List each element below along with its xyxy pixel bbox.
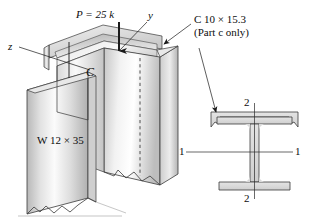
section-fillet-br [259,175,264,182]
channel-designation-label: C 10 × 15.3 [194,13,246,26]
centroid-label: C [86,66,94,80]
section-axis-2-bottom-label: 2 [244,192,250,205]
section-fillet-tr [259,124,264,131]
section-axis-1-right-label: 1 [295,145,301,158]
beam-front-right-face [104,48,160,185]
channel-left-end [44,45,49,70]
section-axis-1-left-label: 1 [179,145,185,158]
figure-canvas [0,0,310,224]
engineering-figure: P = 25 k y z C C 10 × 15.3 (Part c only)… [0,0,310,224]
channel-note-label: (Part c only) [194,26,249,39]
channel-callout-leader-section [199,48,216,112]
near-flange-edge [88,72,96,202]
axis-z-label: z [8,40,12,53]
isometric-beam-assembly [18,25,178,216]
wide-flange-designation-label: W 12 × 35 [37,134,84,147]
section-fillet-tl [245,124,250,131]
axis-y-label: y [148,9,153,22]
section-fillet-bl [245,175,250,182]
load-label: P = 25 k [76,8,114,21]
section-axis-2-top-label: 2 [244,96,250,109]
channel-callout-leader-3d [164,24,191,44]
cross-section-view [186,48,298,199]
beam-right-end-face [160,46,178,185]
load-label-text: P = 25 k [76,8,114,20]
ground-reference-line-2 [96,202,126,213]
